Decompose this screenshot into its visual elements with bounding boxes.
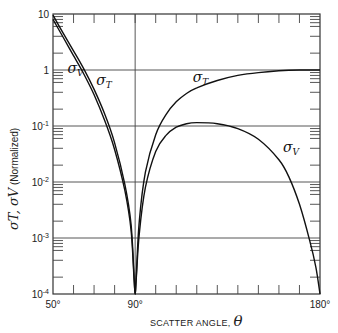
y-tick-label: 10-1 [32,120,49,132]
x-axis-symbol: θ [233,312,242,330]
y-tick-label: 10-3 [32,232,49,244]
chart-svg: 10110-110-210-310-450°90°180°σVσTσTσV [0,0,338,333]
series-curve-sigma-t [53,15,320,294]
y-axis-note: (Normalized) [9,128,20,185]
curve-annotation: σV [67,60,85,78]
x-axis-text: SCATTER ANGLE, [150,318,231,328]
y-tick-label: 10 [38,9,50,20]
plot-frame [53,14,320,294]
x-axis-label: SCATTER ANGLE, θ [150,312,243,330]
series-curve-sigma-v [53,19,320,294]
curve-annotation: σT [193,69,210,87]
y-tick-label: 10-2 [32,176,49,188]
x-tick-label: 90° [128,299,143,310]
curve-annotation: σT [96,72,113,90]
y-tick-label: 1 [43,65,49,76]
y-axis-symbols: σT, σV [6,188,21,230]
y-axis-label: σT, σV (Normalized) [6,128,21,230]
chart-root: 10110-110-210-310-450°90°180°σVσTσTσV σT… [0,0,338,333]
curve-annotation: σV [283,139,301,157]
x-tick-label: 180° [310,299,331,310]
x-tick-label: 50° [45,299,60,310]
